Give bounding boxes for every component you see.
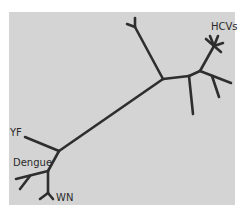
label-yf: YF — [10, 128, 22, 138]
label-hcvs: HCVs — [211, 22, 238, 32]
right-clade-branch — [163, 76, 189, 79]
label-wn: WN — [56, 193, 73, 203]
label-dengue: Dengue — [13, 158, 52, 168]
main-branch — [59, 79, 163, 151]
upper-branch — [135, 27, 163, 79]
yf-branch — [25, 137, 59, 151]
phylogenetic-tree — [0, 0, 245, 216]
